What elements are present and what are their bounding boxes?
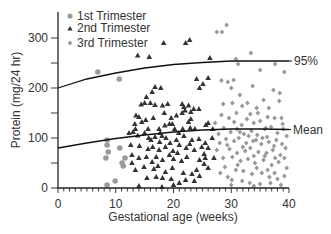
data-point [268, 181, 273, 186]
data-point [238, 159, 243, 164]
data-point [150, 144, 156, 149]
data-point [279, 116, 284, 121]
data-point [200, 81, 206, 86]
data-point [175, 150, 181, 155]
x-tick-label: 40 [282, 197, 296, 211]
data-point [137, 143, 143, 148]
data-point [174, 113, 180, 118]
data-point [167, 140, 173, 145]
data-point [246, 157, 251, 162]
data-point [224, 137, 229, 142]
data-point [251, 154, 256, 159]
data-point [269, 163, 274, 168]
data-point [211, 155, 217, 160]
data-point [275, 177, 280, 182]
data-point [280, 122, 285, 127]
data-point [122, 155, 128, 161]
data-point [213, 121, 218, 126]
data-point [250, 84, 255, 89]
data-point [181, 170, 187, 175]
data-point [120, 163, 126, 169]
data-point [236, 136, 241, 141]
data-point [261, 98, 266, 103]
data-point [217, 141, 222, 146]
data-point [216, 132, 221, 137]
data-point [170, 148, 176, 153]
data-point [117, 145, 123, 151]
data-point [149, 159, 155, 164]
data-point [189, 171, 195, 176]
curve-label-95: 95% [294, 54, 318, 68]
data-point [116, 76, 122, 82]
data-point [234, 168, 239, 173]
data-point [196, 106, 202, 111]
data-point [189, 137, 195, 142]
scatter-chart: 010203040 0100200300 Gestational age (we… [0, 0, 331, 234]
data-point [266, 106, 271, 111]
data-point [240, 104, 245, 109]
y-tick-label: 300 [28, 31, 48, 45]
data-point [168, 115, 174, 120]
data-point [266, 140, 271, 145]
data-point [240, 179, 245, 184]
data-point [220, 30, 225, 35]
y-tick-label: 0 [41, 181, 48, 195]
data-point [255, 133, 260, 138]
data-point [163, 144, 169, 149]
data-point [150, 115, 156, 120]
data-point [236, 62, 241, 67]
data-point [168, 176, 174, 181]
data-point [238, 93, 243, 98]
data-point [246, 134, 251, 139]
data-point [221, 156, 226, 161]
data-point [160, 157, 166, 162]
x-tick-label: 20 [167, 197, 181, 211]
data-point [229, 183, 234, 188]
data-point [196, 136, 202, 141]
data-point [144, 175, 150, 180]
data-point [146, 54, 152, 59]
data-point [260, 136, 265, 141]
data-point [277, 91, 282, 96]
legend-diamond-icon [68, 41, 73, 46]
data-point [181, 133, 187, 138]
data-point [205, 75, 211, 80]
data-point [146, 135, 152, 140]
x-tick-label: 30 [225, 197, 239, 211]
data-point [248, 112, 253, 117]
data-point [284, 134, 289, 139]
data-point [227, 147, 232, 152]
x-axis-ticks: 010203040 [55, 188, 296, 211]
data-point [129, 152, 135, 157]
legend-label-2nd: 2nd Trimester [77, 21, 150, 35]
data-point [158, 85, 164, 90]
data-point [103, 155, 109, 161]
y-tick-label: 100 [28, 131, 48, 145]
data-point [230, 155, 235, 160]
data-point [238, 130, 243, 135]
data-point [241, 169, 246, 174]
data-point [232, 120, 237, 125]
data-point [227, 116, 232, 121]
data-point [218, 171, 223, 176]
curve-label-mean: Mean [293, 123, 323, 137]
data-point [112, 178, 118, 184]
data-point [258, 68, 263, 73]
data-point [191, 178, 197, 183]
data-point [241, 145, 246, 150]
data-point [273, 156, 278, 161]
data-point [132, 121, 138, 126]
data-point [243, 149, 248, 154]
data-point [207, 55, 213, 60]
curve-mean [58, 129, 289, 148]
data-point [183, 177, 189, 182]
data-point [258, 119, 263, 124]
data-point [247, 181, 252, 186]
data-point [273, 62, 278, 67]
data-point [141, 164, 147, 169]
data-point [143, 117, 149, 122]
data-point [274, 138, 279, 143]
legend-triangle-icon [67, 26, 72, 31]
data-point [215, 30, 220, 35]
data-point [161, 110, 167, 115]
